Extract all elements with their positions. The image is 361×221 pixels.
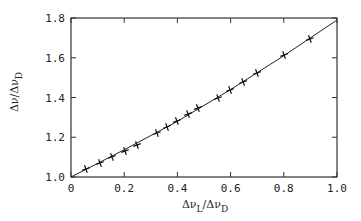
y-axis-ticks: 1.01.21.41.61.8: [45, 12, 337, 184]
y-tick-label: 1.6: [45, 52, 65, 65]
chart-container: 00.20.40.60.81.0 1.01.21.41.61.8 ΔνL/ΔνD…: [0, 0, 361, 221]
line-chart: 00.20.40.60.81.0 1.01.21.41.61.8 ΔνL/ΔνD…: [0, 0, 361, 221]
plus-marker-icon: [107, 152, 117, 162]
plus-marker-icon: [95, 158, 105, 168]
y-axis-label: Δν/ΔνD: [8, 72, 24, 112]
x-tick-label: 0.8: [274, 182, 294, 195]
x-tick-label: 0.2: [114, 182, 134, 195]
x-tick-label: 0.4: [167, 182, 187, 195]
data-series: [71, 20, 337, 177]
x-tick-label: 0: [68, 182, 75, 195]
plus-marker-icon: [172, 116, 182, 126]
plus-marker-icon: [279, 50, 289, 60]
y-tick-label: 1.4: [45, 92, 65, 105]
plus-marker-icon: [162, 122, 172, 132]
x-axis-ticks: 00.20.40.60.81.0: [68, 18, 347, 195]
x-tick-label: 1.0: [327, 182, 347, 195]
x-tick-label: 0.6: [221, 182, 241, 195]
plus-marker-icon: [238, 77, 248, 87]
plus-marker-icon: [252, 68, 262, 78]
y-tick-label: 1.0: [45, 171, 65, 184]
plus-marker-icon: [81, 164, 91, 174]
y-tick-label: 1.8: [45, 12, 65, 25]
plus-marker-icon: [225, 85, 235, 95]
plus-marker-icon: [152, 128, 162, 138]
y-tick-label: 1.2: [45, 131, 65, 144]
x-axis-label: ΔνL/ΔνD: [182, 198, 228, 214]
